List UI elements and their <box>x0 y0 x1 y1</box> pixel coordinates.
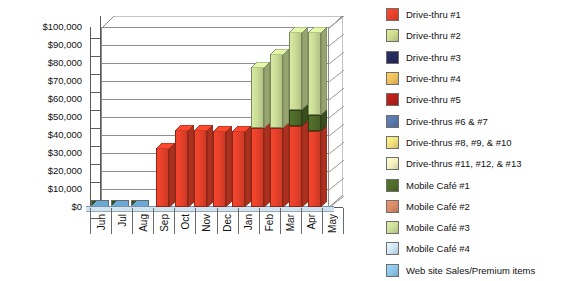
bar-column <box>270 54 283 207</box>
bar-top-face <box>289 27 308 33</box>
bar-segment <box>308 131 321 207</box>
bar-top-face <box>251 62 270 68</box>
legend-swatch-icon <box>386 93 399 106</box>
x-axis-tick-label: Jul <box>117 214 128 227</box>
legend-item-label: Mobile Café #1 <box>406 180 470 191</box>
legend-swatch-icon <box>386 8 399 21</box>
bar-segment <box>289 110 302 126</box>
bar-segment <box>270 54 283 128</box>
legend-item-label: Drive-thrus #6 & #7 <box>406 116 488 127</box>
legend-item[interactable]: Drive-thru #2 <box>386 25 564 46</box>
bar-segment <box>156 148 169 207</box>
x-axis-tick-label: Sep <box>159 214 170 232</box>
legend-item[interactable]: Web site Sales/Premium items <box>386 260 564 281</box>
bar-segment <box>289 126 302 207</box>
bar-top-face <box>308 27 327 33</box>
legend-swatch-icon <box>386 242 399 255</box>
legend-swatch-icon <box>386 264 399 277</box>
legend-item[interactable]: Drive-thrus #8, #9, & #10 <box>386 132 564 153</box>
legend-swatch-icon <box>386 136 399 149</box>
bar-segment <box>175 130 188 207</box>
x-axis-tick-label: Dec <box>222 214 233 232</box>
legend-item[interactable]: Drive-thru #5 <box>386 89 564 110</box>
bar-segment <box>308 115 321 131</box>
x-axis-divider <box>259 208 260 234</box>
x-axis-tick-label: Jan <box>243 214 254 230</box>
legend-item-label: Drive-thrus #11, #12, & #13 <box>406 158 521 169</box>
bar-segment-side-face <box>321 126 327 207</box>
bar-column <box>213 131 226 207</box>
legend-item[interactable]: Drive-thru #3 <box>386 47 564 68</box>
x-axis-tick-label: Nov <box>201 214 212 232</box>
x-axis-divider <box>343 208 344 234</box>
x-axis-tick-label: Aug <box>138 214 149 232</box>
x-axis-divider <box>195 208 196 234</box>
chart-legend: Drive-thru #1Drive-thru #2Drive-thru #3D… <box>386 4 564 281</box>
x-axis-divider <box>322 208 323 234</box>
bar-column <box>194 130 207 207</box>
bar-segment <box>289 32 302 109</box>
x-axis-tick-label: Feb <box>264 214 275 231</box>
bar-column <box>289 32 302 207</box>
legend-swatch-icon <box>386 179 399 192</box>
x-axis-tick-label: Mar <box>285 214 296 231</box>
x-axis-divider <box>301 208 302 234</box>
bar-segment <box>308 32 321 115</box>
legend-item[interactable]: Drive-thru #4 <box>386 68 564 89</box>
legend-item[interactable]: Drive-thrus #6 & #7 <box>386 110 564 131</box>
x-axis-divider <box>174 208 175 234</box>
bar-column <box>308 32 321 207</box>
bar-segment <box>251 67 264 128</box>
legend-swatch-icon <box>386 157 399 170</box>
bar-top-face <box>213 126 232 132</box>
bar-segment-side-face <box>321 27 327 115</box>
bar-top-face <box>194 125 213 131</box>
bar-segment <box>213 131 226 207</box>
bar-segment <box>232 131 245 207</box>
bar-segment <box>270 128 283 207</box>
legend-item-label: Web site Sales/Premium items <box>406 265 535 276</box>
legend-item[interactable]: Mobile Café #3 <box>386 217 564 238</box>
legend-swatch-icon <box>386 29 399 42</box>
legend-swatch-icon <box>386 115 399 128</box>
x-axis-tick-label: Oct <box>180 214 191 230</box>
x-axis-divider <box>238 208 239 234</box>
x-axis-divider <box>153 208 154 234</box>
legend-swatch-icon <box>386 221 399 234</box>
bar-column <box>156 148 169 207</box>
bar-column <box>175 130 188 207</box>
legend-swatch-icon <box>386 51 399 64</box>
bar-top-face <box>156 143 175 149</box>
legend-item[interactable]: Drive-thru #1 <box>386 4 564 25</box>
legend-item-label: Mobile Café #2 <box>406 201 470 212</box>
x-axis-tick-label: Apr <box>306 214 317 230</box>
bar-column <box>251 67 264 207</box>
x-axis-divider <box>132 208 133 234</box>
bar-top-face <box>175 125 194 131</box>
x-axis-tick-label: May <box>327 214 338 233</box>
x-axis-divider <box>111 208 112 234</box>
legend-item-label: Drive-thru #1 <box>406 9 461 20</box>
legend-item-label: Drive-thru #2 <box>406 30 461 41</box>
bar-segment <box>251 128 264 207</box>
x-axis-divider <box>217 208 218 234</box>
bar-top-face <box>232 126 251 132</box>
legend-item[interactable]: Mobile Café #2 <box>386 196 564 217</box>
bar-top-face <box>270 49 289 55</box>
x-axis-divider <box>90 208 91 234</box>
legend-item-label: Mobile Café #4 <box>406 243 470 254</box>
legend-swatch-icon <box>386 72 399 85</box>
bar-series-layer <box>0 0 380 230</box>
bar-column <box>232 131 245 207</box>
legend-item[interactable]: Drive-thrus #11, #12, & #13 <box>386 153 564 174</box>
legend-item[interactable]: Mobile Café #4 <box>386 238 564 259</box>
legend-item-label: Drive-thru #5 <box>406 94 461 105</box>
x-axis-labels: JunJulAugSepOctNovDecJanFebMarAprMay <box>0 208 380 270</box>
x-axis-divider <box>280 208 281 234</box>
legend-item-label: Drive-thrus #8, #9, & #10 <box>406 137 512 148</box>
legend-item-label: Drive-thru #3 <box>406 52 461 63</box>
bar-segment <box>194 130 207 207</box>
legend-item[interactable]: Mobile Café #1 <box>386 174 564 195</box>
x-axis-tick-label: Jun <box>96 214 107 230</box>
